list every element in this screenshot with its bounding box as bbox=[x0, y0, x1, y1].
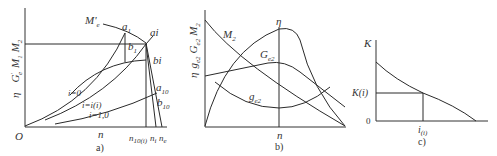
panel-a-x-label: n bbox=[98, 128, 104, 140]
tick-n10: n10(i) bbox=[129, 133, 148, 145]
panel-b-caption: b) bbox=[275, 141, 283, 153]
panel-b-curve-Ge2 bbox=[205, 62, 345, 107]
label-Ge2: Ge2 bbox=[260, 48, 275, 63]
svg-text:ηge2Ge2M2: ηge2Ge2M2 bbox=[187, 23, 202, 78]
label-bi: bi bbox=[153, 54, 162, 66]
panel-c: K K(i) 0 i(i) c) bbox=[351, 37, 488, 148]
panel-a-curve-i0 bbox=[25, 33, 125, 126]
panel-c-y-label: K bbox=[363, 37, 372, 49]
panel-a-caption: a) bbox=[96, 142, 104, 154]
label-curve-i10: i=1,0 bbox=[89, 110, 109, 120]
tick-ni: ni bbox=[150, 133, 157, 145]
panel-b-y-label: ηge2Ge2M2 bbox=[187, 23, 202, 78]
panel-b: ηge2Ge2M2 η M2 Ge2 ge2 n b) bbox=[187, 10, 346, 153]
diagram-canvas: ηG'eM1M2 M'e a1 ai b1 bi a10 b10 i=0 i=i… bbox=[0, 0, 497, 156]
label-a1: a1 bbox=[122, 20, 131, 35]
label-ge2: ge2 bbox=[249, 90, 262, 105]
label-eta: η bbox=[276, 15, 281, 27]
svg-text:ηG'eM1M2: ηG'eM1M2 bbox=[9, 39, 24, 98]
panel-c-tick-ki: K(i) bbox=[351, 87, 369, 99]
panel-a: ηG'eM1M2 M'e a1 ai b1 bi a10 b10 i=0 i=i… bbox=[9, 8, 170, 154]
panel-a-curve-bi bbox=[70, 60, 146, 95]
panel-c-origin: 0 bbox=[366, 116, 371, 126]
label-curve-i0: i=0 bbox=[68, 88, 82, 98]
tick-ne: ne bbox=[159, 133, 167, 145]
panel-c-curve-k bbox=[376, 62, 476, 121]
panel-b-curve-ge2 bbox=[215, 82, 330, 108]
label-b1: b1 bbox=[128, 40, 137, 55]
panel-a-y-label: ηG'eM1M2 bbox=[9, 39, 24, 98]
label-ai: ai bbox=[150, 26, 159, 38]
label-a10: a10 bbox=[156, 81, 169, 96]
panel-b-x-label: n bbox=[277, 129, 283, 141]
panel-c-caption: c) bbox=[418, 136, 426, 148]
label-curve-ii: i=i(i) bbox=[82, 100, 102, 110]
panel-a-origin: O bbox=[15, 130, 23, 142]
label-me: M'e bbox=[84, 14, 100, 29]
